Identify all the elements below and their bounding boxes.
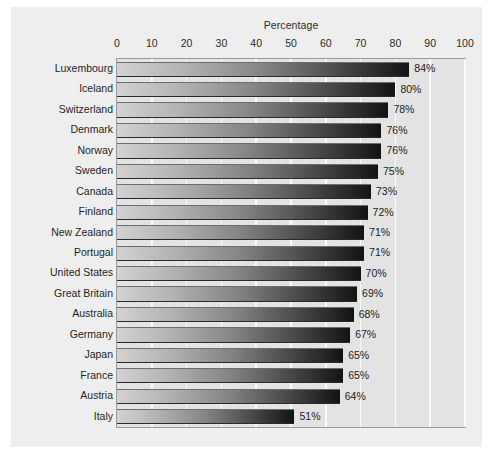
y-tick-label: Portugal — [74, 242, 113, 262]
bar — [117, 62, 409, 77]
bar-row: 76% — [117, 120, 465, 140]
bar-row: 80% — [117, 79, 465, 99]
y-tick-label: Japan — [84, 344, 113, 364]
bar-value-label: 65% — [343, 348, 369, 363]
bar-row: 64% — [117, 386, 465, 406]
bar — [117, 205, 368, 220]
bar-row: 67% — [117, 325, 465, 345]
x-tick-label: 70 — [355, 37, 367, 49]
y-tick-label: Switzerland — [59, 99, 113, 119]
bar-value-label: 84% — [409, 61, 435, 76]
y-axis-category-labels: LuxembourgIcelandSwitzerlandDenmarkNorwa… — [25, 58, 113, 428]
y-tick-label: Italy — [94, 406, 113, 426]
x-tick-label: 30 — [216, 37, 228, 49]
bar-value-label: 67% — [350, 327, 376, 342]
y-tick-label: Sweden — [75, 160, 113, 180]
bar — [117, 389, 340, 404]
x-tick-label: 50 — [285, 37, 297, 49]
bar-series: 84%80%78%76%76%75%73%72%71%71%70%69%68%6… — [117, 59, 465, 427]
bar-value-label: 69% — [357, 286, 383, 301]
bar-value-label: 70% — [361, 266, 387, 281]
bar-value-label: 72% — [368, 205, 394, 220]
x-tick-label: 40 — [250, 37, 262, 49]
bar — [117, 348, 343, 363]
bar — [117, 123, 381, 138]
chart-title: Percentage — [116, 19, 466, 31]
bar-row: 78% — [117, 100, 465, 120]
y-tick-label: Finland — [79, 201, 113, 221]
bar-row: 71% — [117, 223, 465, 243]
bar-row: 65% — [117, 366, 465, 386]
bar — [117, 225, 364, 240]
y-tick-label: Canada — [76, 181, 113, 201]
bar — [117, 327, 350, 342]
bar — [117, 286, 357, 301]
bar-row: 70% — [117, 263, 465, 283]
bar-row: 65% — [117, 345, 465, 365]
bar-row: 69% — [117, 284, 465, 304]
x-tick-label: 60 — [320, 37, 332, 49]
bar-value-label: 68% — [354, 307, 380, 322]
bar-row: 68% — [117, 304, 465, 324]
y-tick-label: Australia — [72, 303, 113, 323]
bar-value-label: 71% — [364, 225, 390, 240]
bar-value-label: 76% — [381, 143, 407, 158]
bar-value-label: 75% — [378, 164, 404, 179]
bar-row: 73% — [117, 182, 465, 202]
y-tick-label: Iceland — [79, 78, 113, 98]
x-tick-label: 90 — [424, 37, 436, 49]
bar-row: 76% — [117, 141, 465, 161]
y-tick-label: Austria — [80, 385, 113, 405]
bar — [117, 143, 381, 158]
y-tick-label: Great Britain — [54, 283, 113, 303]
bar — [117, 102, 388, 117]
bar-row: 72% — [117, 202, 465, 222]
bar — [117, 184, 371, 199]
y-tick-label: Luxembourg — [55, 58, 113, 78]
x-tick-label: 20 — [181, 37, 193, 49]
bar — [117, 266, 361, 281]
bar — [117, 82, 395, 97]
bar-row: 71% — [117, 243, 465, 263]
chart-panel: Percentage 0102030405060708090100 Luxemb… — [11, 7, 482, 447]
bar — [117, 246, 364, 261]
x-tick-label: 0 — [114, 37, 120, 49]
bar-value-label: 73% — [371, 184, 397, 199]
y-tick-label: Germany — [70, 324, 113, 344]
bar-row: 75% — [117, 161, 465, 181]
y-tick-label: New Zealand — [51, 222, 113, 242]
y-tick-label: France — [80, 365, 113, 385]
y-tick-label: Norway — [77, 140, 113, 160]
x-axis-tick-labels: 0102030405060708090100 — [116, 37, 466, 53]
bar — [117, 307, 354, 322]
bar — [117, 368, 343, 383]
bar-value-label: 65% — [343, 368, 369, 383]
bar-row: 51% — [117, 407, 465, 427]
bar-value-label: 80% — [395, 82, 421, 97]
bar-value-label: 64% — [340, 389, 366, 404]
bar-chart-figure: Percentage 0102030405060708090100 Luxemb… — [0, 0, 493, 454]
bar-row: 84% — [117, 59, 465, 79]
x-tick-label: 10 — [146, 37, 158, 49]
plot-area: 84%80%78%76%76%75%73%72%71%71%70%69%68%6… — [116, 58, 466, 428]
bar — [117, 409, 294, 424]
x-tick-label: 80 — [390, 37, 402, 49]
bar-value-label: 78% — [388, 102, 414, 117]
bar-value-label: 51% — [294, 409, 320, 424]
bar — [117, 164, 378, 179]
y-tick-label: United States — [50, 262, 113, 282]
bar-value-label: 71% — [364, 245, 390, 260]
x-tick-label: 100 — [456, 37, 474, 49]
bar-value-label: 76% — [381, 123, 407, 138]
y-tick-label: Denmark — [70, 119, 113, 139]
